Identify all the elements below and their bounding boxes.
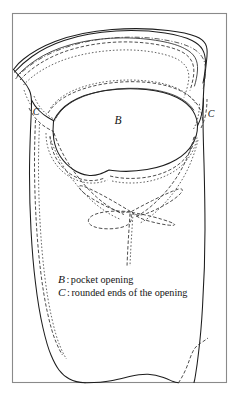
line-drawing-canvas: B C C bbox=[0, 0, 238, 399]
legend: B:pocket opening C:rounded ends of the o… bbox=[58, 273, 234, 300]
label-c-right: C bbox=[208, 108, 215, 119]
legend-description-c: rounded ends of the opening bbox=[71, 287, 187, 298]
legend-entry-b: B:pocket opening bbox=[58, 273, 234, 286]
figure-root: B C C B:pocket opening C:rounded ends of… bbox=[0, 0, 238, 399]
legend-symbol-c: C bbox=[58, 286, 66, 298]
label-b: B bbox=[114, 114, 121, 126]
figure-frame bbox=[13, 14, 227, 383]
legend-entry-c: C:rounded ends of the opening bbox=[58, 286, 234, 299]
label-c-left: C bbox=[33, 106, 40, 117]
legend-description-b: pocket opening bbox=[71, 274, 134, 285]
